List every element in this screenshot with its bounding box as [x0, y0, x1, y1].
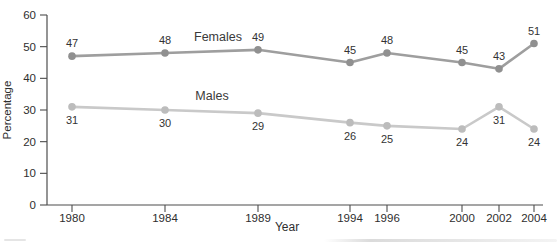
data-label-males: 30	[159, 117, 171, 129]
data-label-males: 29	[252, 120, 264, 132]
chart-figure: 0102030405060198019841989199419962000200…	[0, 0, 559, 243]
data-point-females	[254, 46, 262, 54]
data-point-females	[458, 59, 466, 67]
series-label-females: Females	[194, 30, 242, 44]
data-point-males	[68, 103, 76, 111]
data-point-males	[346, 119, 354, 127]
data-label-females: 49	[252, 31, 264, 43]
data-label-females: 48	[159, 34, 171, 46]
data-label-males: 31	[493, 114, 505, 126]
data-label-females: 45	[456, 44, 468, 56]
data-point-males	[495, 103, 503, 111]
data-label-males: 24	[456, 136, 468, 148]
y-tick-label: 0	[30, 199, 36, 211]
series-label-males: Males	[195, 89, 228, 103]
data-point-females	[346, 59, 354, 67]
y-axis-title: Percentage	[1, 81, 13, 140]
data-label-males: 26	[344, 130, 356, 142]
y-tick-label: 60	[23, 9, 36, 21]
x-axis-title: Year	[275, 220, 299, 234]
y-tick-label: 20	[23, 136, 36, 148]
data-point-females	[68, 52, 76, 60]
data-point-males	[254, 109, 262, 117]
series-line-males	[72, 107, 534, 129]
data-point-females	[530, 40, 538, 48]
x-tick-label: 2004	[521, 212, 547, 224]
data-point-females	[383, 49, 391, 57]
data-label-females: 51	[528, 25, 540, 37]
data-point-males	[530, 125, 538, 133]
data-label-males: 24	[528, 136, 540, 148]
y-tick-label: 50	[23, 41, 36, 53]
data-point-females	[161, 49, 169, 57]
data-label-females: 45	[344, 44, 356, 56]
data-label-females: 48	[381, 34, 393, 46]
data-point-males	[458, 125, 466, 133]
y-tick-label: 40	[23, 72, 36, 84]
data-label-females: 43	[493, 50, 505, 62]
data-label-females: 47	[66, 37, 78, 49]
y-tick-label: 10	[23, 167, 36, 179]
x-tick-label: 1989	[245, 212, 271, 224]
x-tick-label: 1994	[337, 212, 363, 224]
data-point-males	[383, 122, 391, 130]
x-tick-label: 1984	[152, 212, 178, 224]
x-tick-label: 2002	[486, 212, 512, 224]
line-chart: 0102030405060198019841989199419962000200…	[0, 0, 559, 243]
data-label-males: 25	[381, 133, 393, 145]
x-tick-label: 2000	[449, 212, 475, 224]
y-tick-label: 30	[23, 104, 36, 116]
data-label-males: 31	[66, 114, 78, 126]
x-tick-label: 1996	[374, 212, 400, 224]
data-point-males	[161, 106, 169, 114]
data-point-females	[495, 65, 503, 73]
x-tick-label: 1980	[59, 212, 85, 224]
